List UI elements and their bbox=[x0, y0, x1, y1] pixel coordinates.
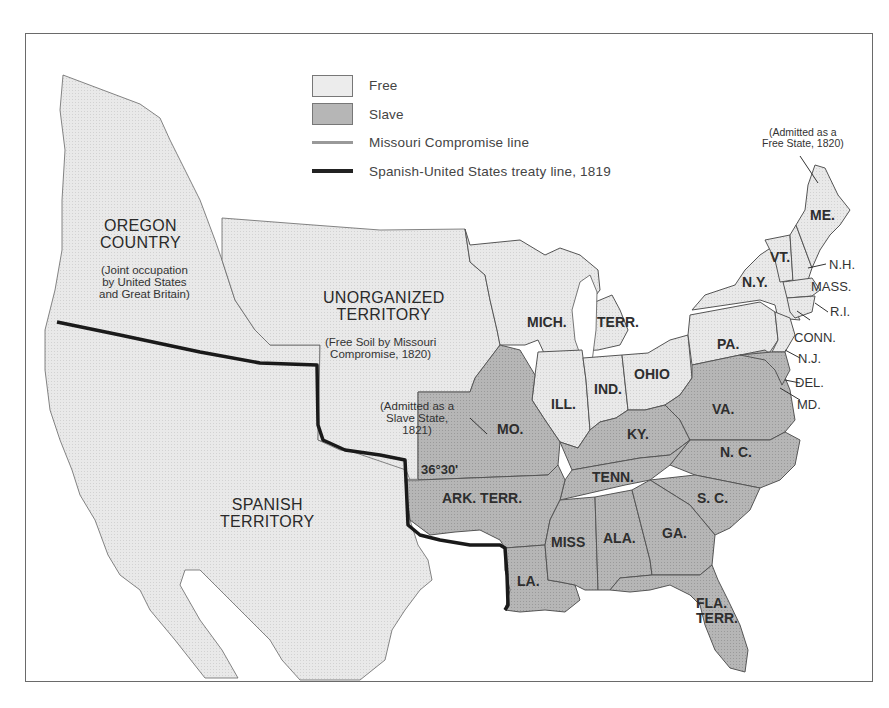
state-label-pa: PA. bbox=[717, 337, 739, 352]
legend-label-treaty-line: Spanish-United States treaty line, 1819 bbox=[369, 164, 611, 179]
oregon-note-1: (Joint occupation bbox=[99, 264, 190, 276]
label-oregon: OREGON COUNTRY bbox=[100, 218, 181, 252]
state-label-ill: ILL. bbox=[551, 397, 576, 412]
oregon-note-3: and Great Britain) bbox=[99, 288, 190, 300]
state-label-nc: N. C. bbox=[720, 445, 752, 460]
state-label-ind: IND. bbox=[594, 382, 622, 397]
state-label-la: LA. bbox=[517, 574, 540, 589]
note-unorganized: (Free Soil by Missouri Compromise, 1820) bbox=[325, 336, 436, 360]
map-legend: Free Slave Missouri Compromise line Span… bbox=[312, 72, 611, 186]
label-spanish: SPANISH TERRITORY bbox=[220, 497, 315, 531]
state-label-ky: KY. bbox=[627, 427, 649, 442]
legend-label-slave: Slave bbox=[369, 107, 404, 122]
state-label-md: MD. bbox=[797, 398, 821, 412]
state-label-nh: N.H. bbox=[829, 258, 855, 272]
state-label-fla: FLA. TERR. bbox=[696, 596, 738, 625]
state-label-me: ME. bbox=[810, 208, 835, 223]
unorganized-name-2: TERRITORY bbox=[323, 307, 445, 324]
free-swatch bbox=[312, 75, 353, 97]
unorganized-name-1: UNORGANIZED bbox=[323, 290, 445, 307]
spanish-name-1: SPANISH bbox=[220, 497, 315, 514]
mo-note-3: 1821) bbox=[380, 424, 454, 436]
fla-line-1: FLA. bbox=[696, 596, 738, 611]
label-unorganized: UNORGANIZED TERRITORY bbox=[323, 290, 445, 324]
thin-line-icon bbox=[312, 141, 353, 144]
state-label-mass: MASS. bbox=[811, 280, 851, 294]
state-label-conn: CONN. bbox=[794, 331, 836, 345]
legend-label-missouri-line: Missouri Compromise line bbox=[369, 135, 529, 150]
me-note-2: Free State, 1820) bbox=[762, 138, 844, 149]
legend-item-treaty-line: Spanish-United States treaty line, 1819 bbox=[312, 156, 611, 186]
slave-swatch bbox=[312, 103, 353, 125]
oregon-note-2: by United States bbox=[99, 276, 190, 288]
oregon-name-1: OREGON bbox=[100, 218, 181, 235]
latitude-label: 36°30' bbox=[421, 463, 458, 477]
legend-item-free: Free bbox=[312, 72, 611, 99]
note-maine-admitted: (Admitted as a Free State, 1820) bbox=[762, 127, 844, 149]
state-label-nj: N.J. bbox=[798, 352, 821, 366]
note-missouri-admitted: (Admitted as a Slave State, 1821) bbox=[380, 400, 454, 436]
note-oregon: (Joint occupation by United States and G… bbox=[99, 264, 190, 300]
mo-note-1: (Admitted as a bbox=[380, 400, 454, 412]
fla-line-2: TERR. bbox=[696, 611, 738, 626]
state-label-ga: GA. bbox=[662, 526, 687, 541]
state-label-del: DEL. bbox=[795, 376, 824, 390]
spanish-name-2: TERRITORY bbox=[220, 514, 315, 531]
state-label-va: VA. bbox=[712, 402, 734, 417]
thick-line-icon bbox=[312, 169, 353, 173]
legend-item-slave: Slave bbox=[312, 99, 611, 129]
mo-note-2: Slave State, bbox=[380, 412, 454, 424]
leader-ri bbox=[815, 303, 828, 312]
state-label-tenn: TENN. bbox=[592, 470, 634, 485]
state-label-miss: MISS bbox=[551, 535, 585, 550]
state-label-sc: S. C. bbox=[697, 491, 728, 506]
state-label-ny: N.Y. bbox=[742, 275, 768, 290]
unorganized-note-2: Compromise, 1820) bbox=[325, 348, 436, 360]
state-label-ark: ARK. TERR. bbox=[442, 491, 522, 506]
state-label-mich: MICH. bbox=[527, 315, 567, 330]
state-label-ri: R.I. bbox=[830, 305, 850, 319]
state-label-mo: MO. bbox=[497, 422, 523, 437]
state-label-vt: VT. bbox=[770, 250, 790, 265]
state-label-terr: TERR. bbox=[597, 315, 639, 330]
oregon-name-2: COUNTRY bbox=[100, 235, 181, 252]
legend-item-missouri-line: Missouri Compromise line bbox=[312, 129, 611, 156]
legend-label-free: Free bbox=[369, 78, 398, 93]
unorganized-note-1: (Free Soil by Missouri bbox=[325, 336, 436, 348]
state-label-ohio: OHIO bbox=[634, 367, 670, 382]
state-label-ala: ALA. bbox=[603, 531, 636, 546]
